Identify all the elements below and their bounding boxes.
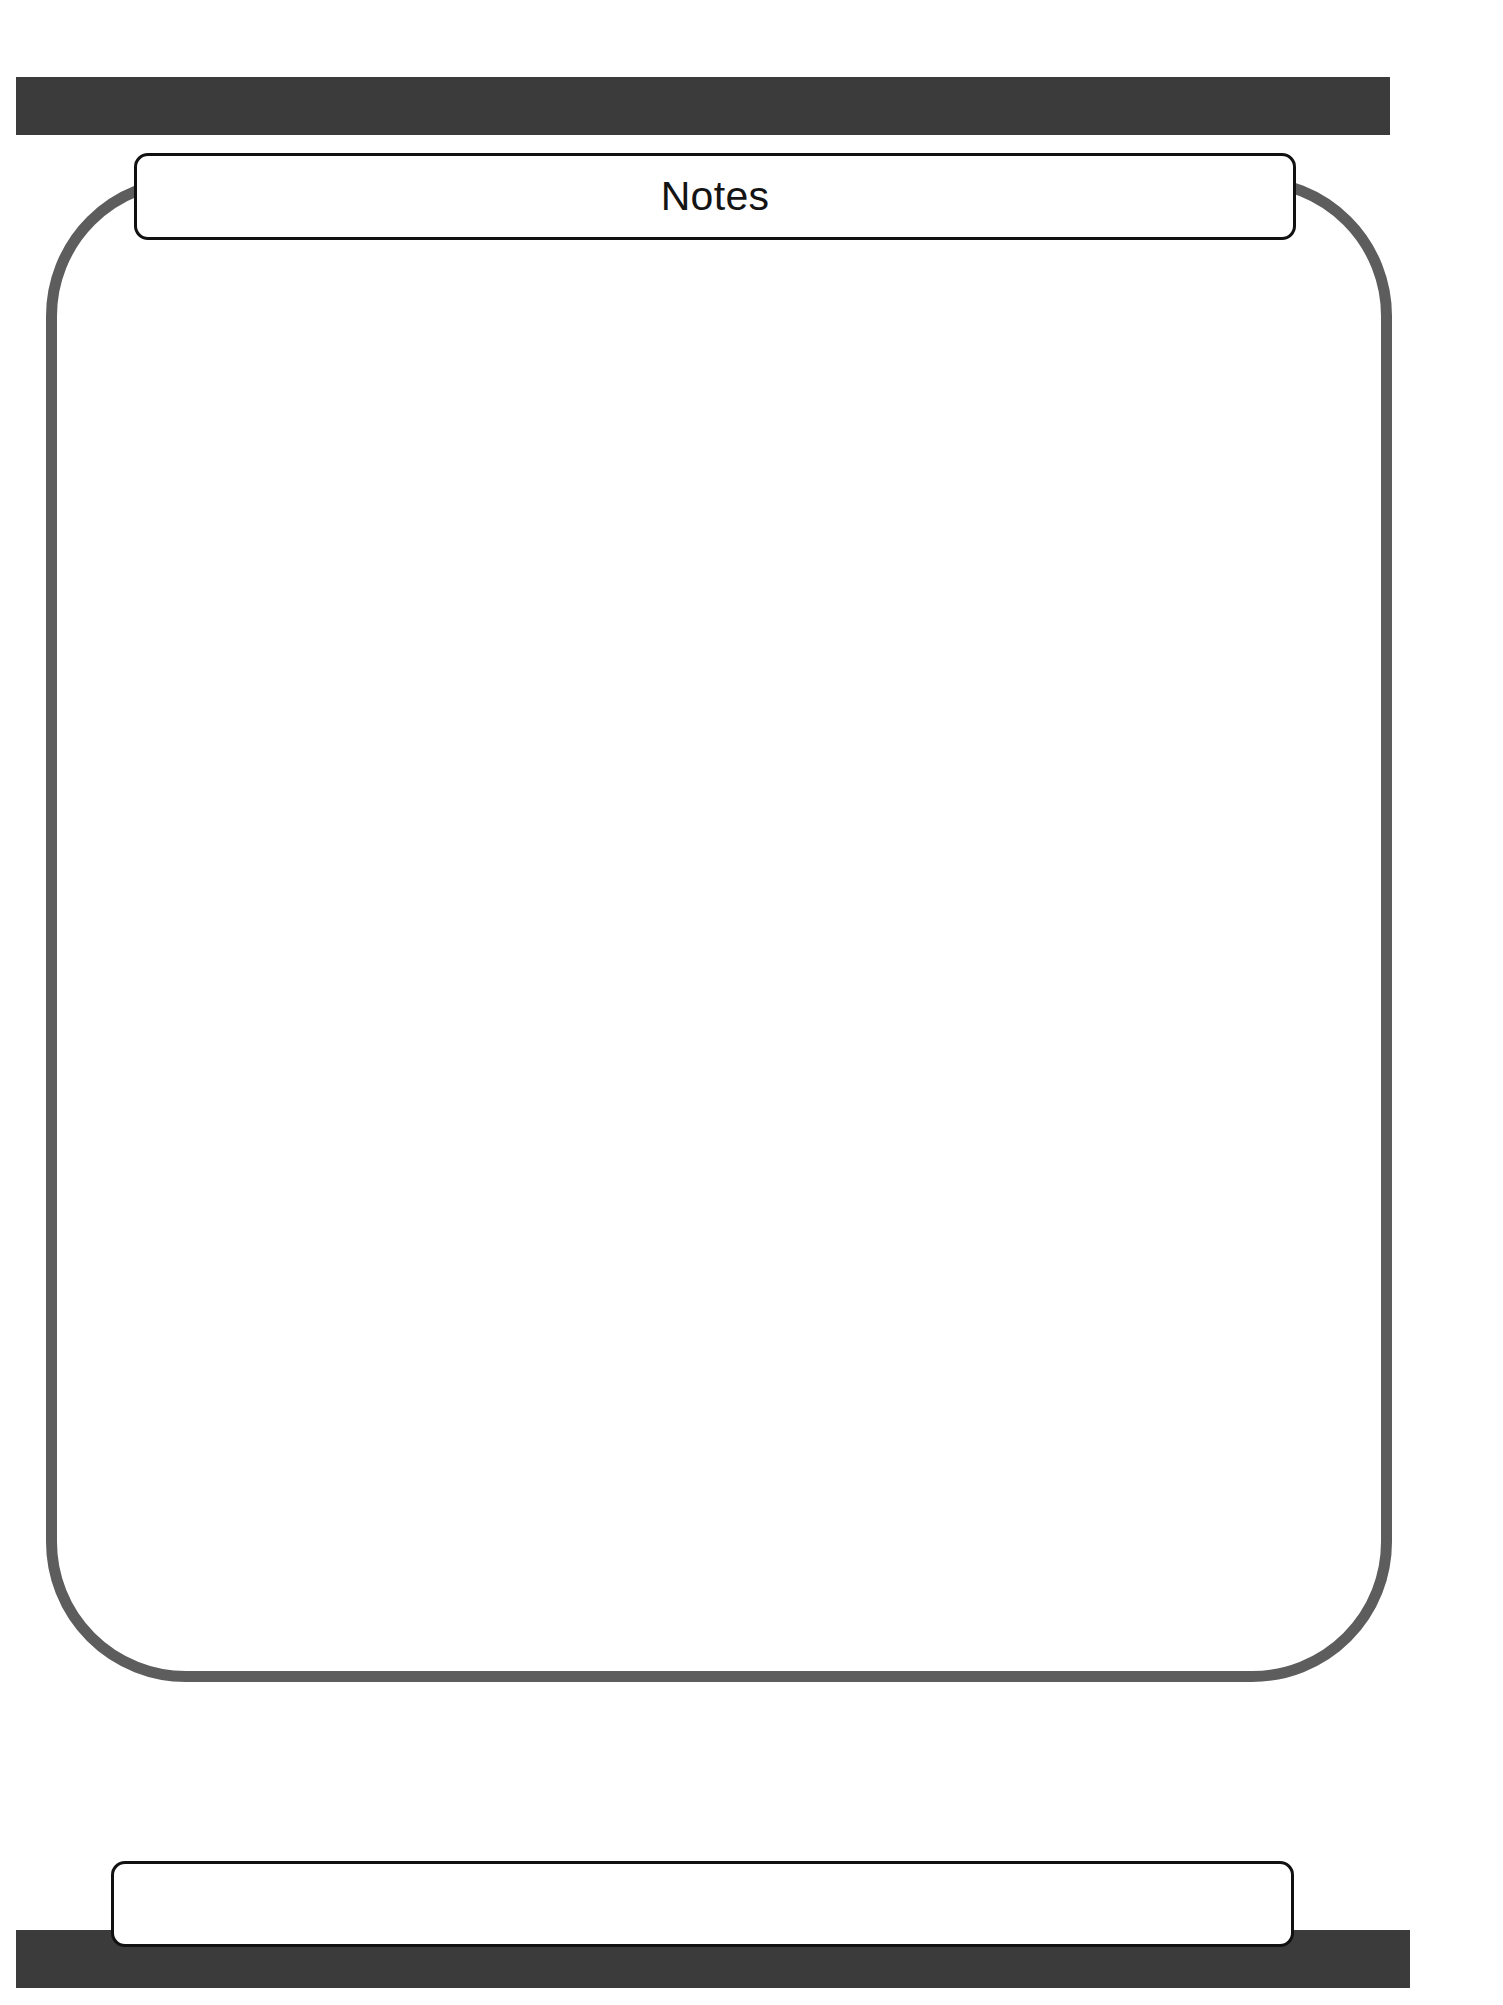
footer-box-label: [114, 1864, 1291, 1944]
footer-text-box[interactable]: [111, 1861, 1294, 1947]
page-title: Notes: [661, 176, 770, 217]
notes-title-tab: Notes: [134, 153, 1296, 240]
header-banner-bar: [16, 77, 1390, 135]
notes-writing-area[interactable]: [70, 250, 1370, 1660]
notes-page: Notes: [0, 0, 1503, 2005]
